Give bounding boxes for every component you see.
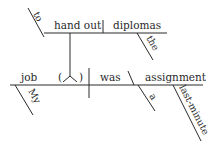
word-to: to [31,10,45,24]
paren-right: ) [79,71,83,83]
complement-divider [128,71,134,85]
word-my: My [26,87,43,106]
word-a: a [147,91,160,102]
word-assignment: assignment [145,71,207,83]
word-diplomas: diplomas [113,19,161,31]
sentence-diagram: to hand out diplomas the ( ) job was ass… [0,0,215,149]
word-job: job [19,71,38,83]
word-was: was [100,71,121,83]
paren-left: ( [58,71,62,83]
word-hand-out: hand out [54,19,102,31]
